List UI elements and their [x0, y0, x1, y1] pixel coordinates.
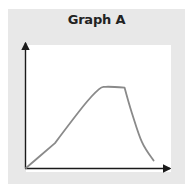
- data-line: [26, 87, 154, 168]
- line-chart: [0, 0, 193, 192]
